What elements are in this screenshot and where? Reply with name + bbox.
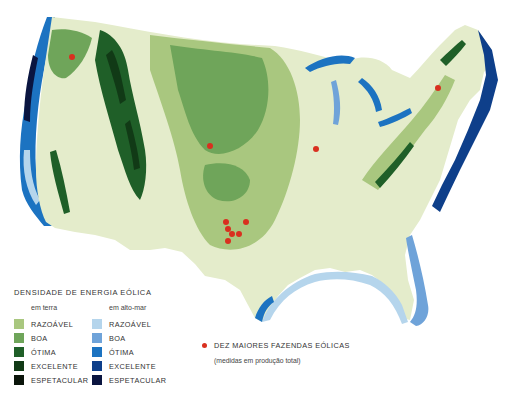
wind-farms-label: DEZ MAIORES FAZENDAS EÓLICAS [214,341,350,350]
legend-label: EXCELENTE [109,362,156,371]
swatch-land-boa [14,333,24,343]
legend-item: EXCELENTE [14,359,92,373]
swatch-sea-espetacular [92,375,102,385]
legend-item: EXCELENTE [92,359,170,373]
legend-label: ESPETACULAR [31,376,88,385]
legend-label: ÓTIMA [109,348,134,357]
swatch-land-excelente [14,361,24,371]
swatch-sea-excelente [92,361,102,371]
legend-item: BOA [14,331,92,345]
legend-item: ÓTIMA [92,345,170,359]
swatch-sea-razoavel [92,319,102,329]
legend-label: BOA [31,334,48,343]
legend-item: RAZOÁVEL [92,317,170,331]
legend-label: RAZOÁVEL [109,320,151,329]
legend-offshore-heading: em alto-mar [109,304,170,311]
legend-item: RAZOÁVEL [14,317,92,331]
legend-offshore-column: em alto-mar RAZOÁVEL BOA ÓTIMA EXCELENTE… [92,304,170,387]
legend-item: BOA [92,331,170,345]
legend-land-column: em terra RAZOÁVEL BOA ÓTIMA EXCELENTE ES… [14,304,92,387]
swatch-land-otima [14,347,24,357]
legend-label: BOA [109,334,126,343]
wind-farm-dot-icon [202,343,207,348]
legend-wind-farms: DEZ MAIORES FAZENDAS EÓLICAS (medidas em… [202,341,350,364]
swatch-land-espetacular [14,375,24,385]
legend-land-heading: em terra [31,304,92,311]
legend-label: ÓTIMA [31,348,56,357]
legend-item: ESPETACULAR [14,373,92,387]
legend-title: DENSIDADE DE ENERGIA EÓLICA [14,288,170,297]
swatch-sea-otima [92,347,102,357]
legend-label: RAZOÁVEL [31,320,73,329]
legend-label: EXCELENTE [31,362,78,371]
legend-label: ESPETACULAR [109,376,166,385]
legend-item: ESPETACULAR [92,373,170,387]
wind-farms-note: (medidas em produção total) [214,357,350,364]
legend-item: ÓTIMA [14,345,92,359]
swatch-land-razoavel [14,319,24,329]
swatch-sea-boa [92,333,102,343]
legend: DENSIDADE DE ENERGIA EÓLICA em terra RAZ… [14,288,170,387]
